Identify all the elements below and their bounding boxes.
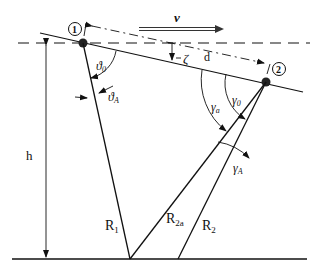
height-label: h bbox=[26, 148, 33, 163]
distance-tick-2 bbox=[267, 64, 270, 74]
gamma0-label: γ0 bbox=[232, 93, 241, 108]
gamma-a-label: γa bbox=[211, 100, 220, 115]
velocity-label: v bbox=[174, 10, 180, 25]
gammaA-label: γA bbox=[233, 161, 243, 176]
distance-label: d bbox=[204, 50, 210, 64]
gammaA-arc bbox=[218, 142, 249, 158]
reflection-geometry-diagram: v d ζ 1 2 h ϑ0 ϑA γa γ0 γA R1 R2a R2 bbox=[0, 0, 325, 275]
point-1-label: 1 bbox=[72, 24, 77, 35]
thetaA-label: ϑA bbox=[108, 90, 119, 105]
R1-label: R1 bbox=[105, 218, 119, 235]
zeta-label: ζ bbox=[183, 51, 189, 66]
thetaA-arrow-left bbox=[75, 97, 87, 98]
point-2-label: 2 bbox=[276, 64, 281, 75]
R2-label: R2 bbox=[202, 218, 216, 235]
ray-R2a bbox=[130, 82, 266, 259]
theta0-label: ϑ0 bbox=[96, 59, 106, 74]
R2a-label: R2a bbox=[166, 211, 184, 228]
velocity-arrow bbox=[139, 25, 224, 33]
distance-dim-line bbox=[92, 26, 264, 63]
distance-tick-1 bbox=[84, 24, 86, 36]
ray-R2 bbox=[178, 82, 266, 259]
